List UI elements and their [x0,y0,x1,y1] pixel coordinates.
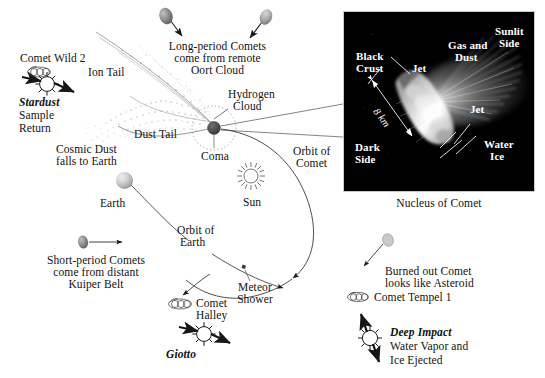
label-coma: Coma [192,150,238,163]
label-cosmic-dust-2: falls to Earth [56,155,117,168]
label-deep-impact-2: Ice Ejected [390,354,443,367]
sun-rays-icon [237,162,265,190]
hydrogen-cloud-leader-line [214,109,228,119]
burned-out-comet-arrow [364,244,383,266]
label-long-period-2: come from remote [155,52,280,65]
panel-label-dark-side-1: Dark [355,141,380,153]
label-orbit-of-earth-1: Orbit of [177,224,215,237]
label-orbit-of-comet-1: Orbit of [293,145,331,158]
label-orbit-of-earth-2: Earth [180,236,205,249]
label-comet-halley-1: Comet [196,297,227,310]
label-comet-tempel-1: Comet Tempel 1 [374,291,452,304]
label-sun: Sun [234,196,270,209]
panel-label-black-crust-2: Crust [356,62,383,74]
label-meteor-shower-2: Shower [228,293,282,306]
panel-label-gas-and-dust-2: Dust [455,51,477,63]
meteor-shower-leader-line [245,270,250,281]
label-stardust: Stardust [19,96,59,109]
comet-nucleus-photo-panel: Black Crust Jet Gas and Dust Sunlit Side… [343,11,535,192]
panel-label-water-ice-2: Ice [490,150,504,162]
panel-label-jet-lower: Jet [470,103,484,115]
burned-out-comet-blob [381,232,396,248]
label-deep-impact: Deep Impact [390,326,451,339]
giotto-spacecraft-icon [179,322,230,346]
long-period-arrow-right [250,22,262,38]
earth-sphere-icon [116,172,133,189]
deep-impact-spacecraft-icon [358,314,382,362]
panel-label-jet-upper: Jet [412,62,426,74]
panel-label-sunlit-side-2: Side [499,37,520,49]
comet-wild-2-glyph-icon [28,67,51,77]
label-hydrogen-cloud-1: Hydrogen [228,88,275,101]
label-stardust-return: Return [19,122,51,135]
label-hydrogen-cloud-2: Cloud [233,100,262,113]
label-comet-wild-2: Comet Wild 2 [20,52,86,65]
label-earth: Earth [100,197,125,210]
comet-nucleus-dot [208,122,221,135]
label-short-period-3: Kuiper Belt [41,278,151,291]
label-burned-out-2: looks like Asteroid [385,277,474,290]
comet-halley-glyph-icon [169,299,192,309]
label-long-period-3: Oort Cloud [155,64,280,77]
comet-diagram-canvas: Comet Wild 2 Stardust Sample Return Ion … [0,0,545,378]
panel-label-black-crust-1: Black [356,50,383,62]
label-orbit-of-comet-2: Comet [296,157,327,170]
panel-label-sunlit-side-1: Sunlit [495,25,524,37]
label-stardust-sample: Sample [19,109,54,122]
label-dust-tail: Dust Tail [134,128,177,141]
label-cosmic-dust-1: Cosmic Dust [56,143,117,156]
label-short-period-2: come from distant [41,266,151,279]
label-comet-halley-2: Halley [196,309,227,322]
label-deep-impact-1: Water Vapor and [390,340,468,353]
label-long-period-1: Long-period Comets [155,40,280,53]
panel-label-water-ice-1: Water [484,138,514,150]
long-period-arrow-left [170,20,182,36]
label-burned-out-1: Burned out Comet [385,265,472,278]
meteor-shower-node [242,265,247,270]
label-ion-tail: Ion Tail [88,66,125,79]
label-short-period-1: Short-period Comets [41,254,151,267]
panel-label-dark-side-2: Side [355,153,376,165]
label-giotto: Giotto [166,348,196,361]
panel-label-gas-and-dust-1: Gas and [448,39,488,51]
short-period-comet-blob [77,235,89,250]
comet-tempel-1-glyph-icon [348,292,369,301]
label-meteor-shower-1: Meteor [228,281,282,294]
label-nucleus-of-comet: Nucleus of Comet [369,197,509,210]
